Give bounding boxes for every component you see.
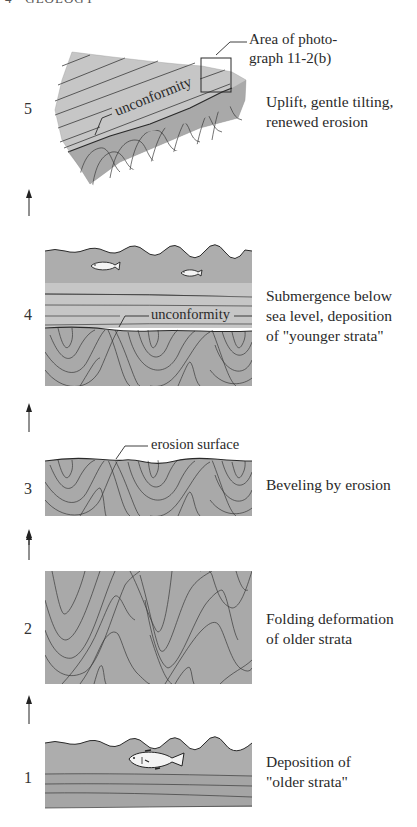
stage-1-older-strata [45, 774, 252, 808]
stage-4-older-strata [45, 327, 252, 386]
stage-5-block: unconformity [55, 42, 247, 190]
stage-3-older-strata [45, 458, 252, 516]
stage-3-caption: Beveling by erosion [266, 475, 391, 495]
stage-number-2: 2 [24, 620, 32, 638]
erosion-surface-leader [116, 446, 148, 459]
stage-2-caption: Folding deformation of older strata [266, 609, 394, 649]
erosion-surface-callout: erosion surface [151, 436, 239, 453]
stage-5-caption: Uplift, gentle tilting, renewed erosion [266, 92, 393, 132]
stage-3-block [45, 446, 252, 517]
stage-4-unconformity-callout: unconformity [151, 306, 230, 323]
stage-1-caption: Deposition of "older strata" [266, 752, 351, 792]
stage-number-4: 4 [24, 306, 32, 324]
up-arrow-icon [26, 189, 32, 216]
up-arrow-icon [26, 695, 32, 724]
up-arrow-icon [26, 403, 32, 432]
stage-number-3: 3 [24, 480, 32, 498]
stage-2-block [45, 570, 252, 684]
stage-4-caption: Submergence below sea level, deposition … [266, 286, 392, 346]
stage-number-5: 5 [24, 100, 32, 118]
photo-area-leader [216, 42, 247, 55]
stage-1-block [45, 737, 252, 808]
stage-number-1: 1 [24, 769, 32, 787]
photo-area-callout: Area of photo- graph 11-2(b) [249, 30, 337, 68]
